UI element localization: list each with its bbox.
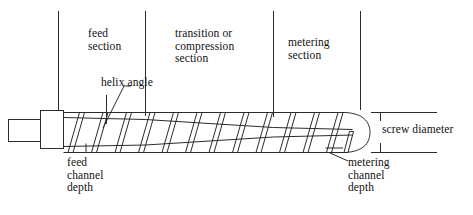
flight-10 xyxy=(280,113,297,153)
core-bottom-line xyxy=(64,135,353,147)
label-feed-channel-depth: feed channel depth xyxy=(67,156,103,194)
flight-7 xyxy=(209,113,226,153)
label-screw-diameter: screw diameter xyxy=(382,123,453,136)
label-transition-compression-section: transition or compression section xyxy=(175,27,234,65)
label-metering-channel-depth: metering channel depth xyxy=(348,156,390,194)
flight-12 xyxy=(327,113,344,153)
flight-11 xyxy=(303,113,320,153)
extruder-screw-diagram: feed section transition or compression s… xyxy=(0,0,473,215)
label-feed-section: feed section xyxy=(88,27,121,52)
metering-depth-leader-line xyxy=(329,153,348,162)
flight-9 xyxy=(256,113,273,153)
screw-shank xyxy=(9,120,41,142)
flight-5 xyxy=(162,113,179,153)
screw-collar xyxy=(41,111,64,149)
flight-8 xyxy=(233,113,250,153)
label-helix-angle: helix angle xyxy=(101,76,153,89)
flight-6 xyxy=(186,113,203,153)
flight-4 xyxy=(139,113,156,153)
label-metering-section: metering section xyxy=(288,36,330,61)
